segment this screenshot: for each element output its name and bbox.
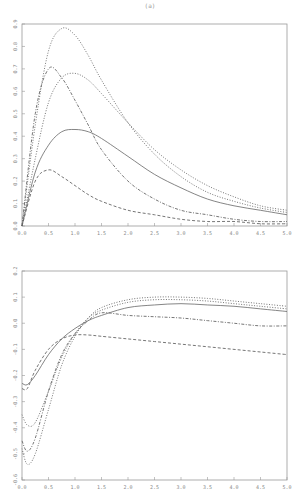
x-tick-label: 2.5 <box>150 230 159 236</box>
x-tick-label: 1.0 <box>70 230 79 236</box>
x-tick-label: 5.0 <box>282 230 291 236</box>
series-line-dotted-medium <box>22 73 287 226</box>
x-tick-label: 0.5 <box>44 484 53 490</box>
plot-frame <box>22 271 287 480</box>
series-line-dotted-medium <box>22 299 287 426</box>
x-tick-label: 2.0 <box>123 230 132 236</box>
series-line-dashed-low <box>22 170 287 226</box>
series-line-solid <box>22 304 287 385</box>
series-line-dashed-low <box>22 335 287 390</box>
series-line-dotted-tall <box>22 28 287 226</box>
y-tick-label: 0.9 <box>12 19 18 28</box>
y-tick-label: 0.4 <box>12 132 18 141</box>
x-tick-label: 0.5 <box>44 230 53 236</box>
y-tick-label: -0.6 <box>12 474 18 486</box>
y-tick-label: 0.7 <box>12 64 18 73</box>
y-tick-label: 0.0 <box>12 221 18 230</box>
y-tick-label: -0.3 <box>12 396 18 408</box>
x-tick-label: 2.0 <box>123 484 132 490</box>
y-tick-label: -0.5 <box>12 448 18 460</box>
y-tick-label: 0.5 <box>12 109 18 118</box>
x-tick-label: 4.0 <box>229 230 238 236</box>
y-tick-label: 0.3 <box>12 154 18 163</box>
x-tick-label: 1.0 <box>70 484 79 490</box>
series-line-solid <box>22 129 287 226</box>
y-tick-label: 0.1 <box>12 293 18 302</box>
y-tick-label: -0.2 <box>12 369 18 381</box>
bottom-line-chart: 0.00.51.01.52.02.53.03.54.04.55.0-0.6-0.… <box>0 245 300 498</box>
top-line-chart: 0.00.51.01.52.02.53.03.54.04.55.00.00.10… <box>0 0 300 245</box>
x-tick-label: 4.5 <box>256 230 265 236</box>
x-tick-label: 4.5 <box>256 484 265 490</box>
x-tick-label: 5.0 <box>282 484 291 490</box>
y-tick-label: -0.4 <box>12 422 18 434</box>
x-tick-label: 0.0 <box>17 484 26 490</box>
x-tick-label: 3.0 <box>176 230 185 236</box>
x-tick-label: 3.5 <box>203 484 212 490</box>
y-tick-label: 0.1 <box>12 199 18 208</box>
x-tick-label: 4.0 <box>229 484 238 490</box>
x-tick-label: 2.5 <box>150 484 159 490</box>
x-tick-label: 1.5 <box>97 484 106 490</box>
y-tick-label: 0.0 <box>12 319 18 328</box>
x-tick-label: 3.0 <box>176 484 185 490</box>
y-tick-label: 0.6 <box>12 87 18 96</box>
y-tick-label: 0.2 <box>12 266 18 275</box>
x-tick-label: 3.5 <box>203 230 212 236</box>
x-tick-label: 1.5 <box>97 230 106 236</box>
y-tick-label: -0.1 <box>12 343 18 355</box>
y-tick-label: 0.2 <box>12 177 18 186</box>
series-line-dotted-tall <box>22 297 287 465</box>
x-tick-label: 0.0 <box>17 230 26 236</box>
series-line-dash-dot <box>22 313 287 452</box>
y-tick-label: 0.8 <box>12 42 18 51</box>
plot-frame <box>22 24 287 226</box>
